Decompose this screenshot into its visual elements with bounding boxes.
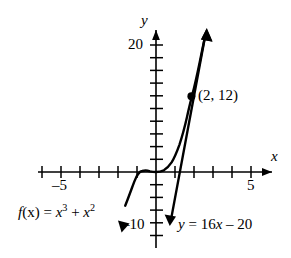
x-tick-label-5: 5 [247, 178, 255, 193]
cubic-curve [125, 34, 205, 206]
point-label-2-12: (2, 12) [198, 88, 238, 103]
graph-figure: y x 20 –10 –5 5 (2, 12) f(x) = x3 + x2 y… [0, 0, 291, 258]
line-arrow-down-icon [165, 215, 176, 226]
y-tick-label-20: 20 [128, 37, 143, 52]
cubic-arrow-up-icon [201, 28, 212, 41]
x-axis-arrow-icon [262, 168, 272, 176]
line-graph-16x-minus-20 [165, 28, 213, 226]
cubic-eq-term2-exp: 2 [90, 202, 95, 213]
line-eq-y: y [178, 216, 185, 232]
point-marker-2-12 [187, 92, 195, 100]
y-tick-label-neg10: –10 [122, 217, 145, 232]
x-tick-label-neg5: –5 [52, 178, 67, 193]
cubic-equation-label: f(x) = x3 + x2 [18, 205, 95, 220]
y-axis-arrow-icon [152, 30, 160, 40]
line-eq-rest: = 16 [185, 216, 216, 232]
cubic-graph-x3-plus-x2 [118, 28, 213, 233]
line-equation-label: y = 16x – 20 [178, 217, 252, 232]
y-axis-label: y [141, 13, 148, 28]
line-eq-tail: – 20 [222, 216, 252, 232]
cubic-eq-arg: (x) = [22, 204, 55, 220]
cubic-eq-plus: + [67, 204, 83, 220]
x-axis-label: x [271, 149, 278, 164]
